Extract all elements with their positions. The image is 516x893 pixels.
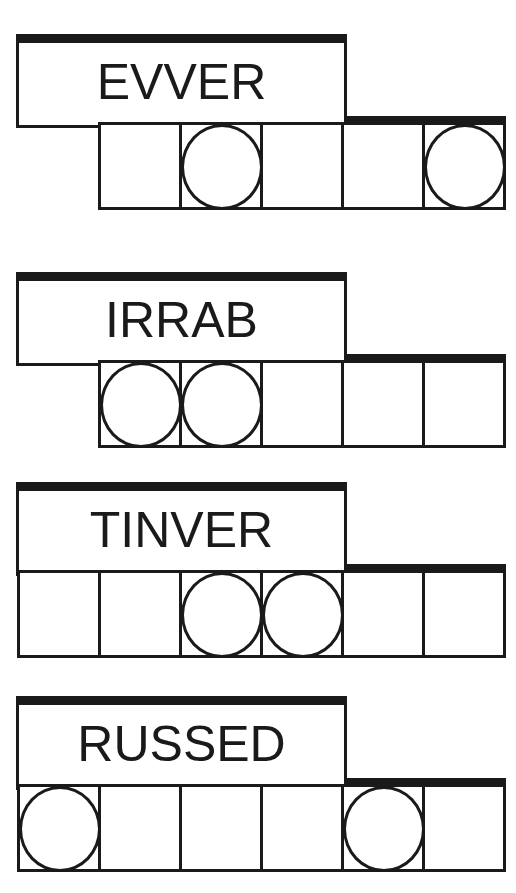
- answer-cell[interactable]: [422, 122, 506, 210]
- scrambled-word-box: TINVER: [16, 482, 347, 576]
- scrambled-word-box: RUSSED: [16, 696, 347, 790]
- answer-cell[interactable]: [341, 570, 425, 658]
- answer-cells: [98, 360, 506, 448]
- circled-letter-marker-icon: [424, 124, 506, 210]
- circled-letter-marker-icon: [262, 572, 344, 658]
- answer-cells: [98, 122, 506, 210]
- answer-cell[interactable]: [17, 570, 101, 658]
- answer-cell[interactable]: [341, 360, 425, 448]
- circled-letter-marker-icon: [100, 362, 182, 448]
- scrambled-word: IRRAB: [19, 291, 344, 349]
- answer-cell[interactable]: [260, 784, 344, 872]
- answer-cell[interactable]: [341, 122, 425, 210]
- answer-cell[interactable]: [179, 570, 263, 658]
- answer-cell[interactable]: [260, 570, 344, 658]
- scrambled-word: TINVER: [19, 501, 344, 559]
- scrambled-word: RUSSED: [19, 715, 344, 773]
- answer-cells: [17, 784, 506, 872]
- circled-letter-marker-icon: [19, 786, 101, 872]
- answer-cell[interactable]: [179, 784, 263, 872]
- answer-cell[interactable]: [422, 570, 506, 658]
- answer-cell[interactable]: [260, 360, 344, 448]
- answer-cell[interactable]: [422, 360, 506, 448]
- answer-cell[interactable]: [98, 360, 182, 448]
- answer-cell[interactable]: [98, 784, 182, 872]
- answer-cell[interactable]: [341, 784, 425, 872]
- scrambled-word-box: IRRAB: [16, 272, 347, 366]
- answer-cell[interactable]: [179, 360, 263, 448]
- answer-cell[interactable]: [98, 122, 182, 210]
- scrambled-word-box: EVVER: [16, 34, 347, 128]
- circled-letter-marker-icon: [181, 362, 263, 448]
- scrambled-word: EVVER: [19, 53, 344, 111]
- answer-cell[interactable]: [260, 122, 344, 210]
- answer-cells: [17, 570, 506, 658]
- answer-cell[interactable]: [422, 784, 506, 872]
- circled-letter-marker-icon: [181, 572, 263, 658]
- answer-cell[interactable]: [179, 122, 263, 210]
- answer-cell[interactable]: [98, 570, 182, 658]
- answer-cell[interactable]: [17, 784, 101, 872]
- circled-letter-marker-icon: [343, 786, 425, 872]
- circled-letter-marker-icon: [181, 124, 263, 210]
